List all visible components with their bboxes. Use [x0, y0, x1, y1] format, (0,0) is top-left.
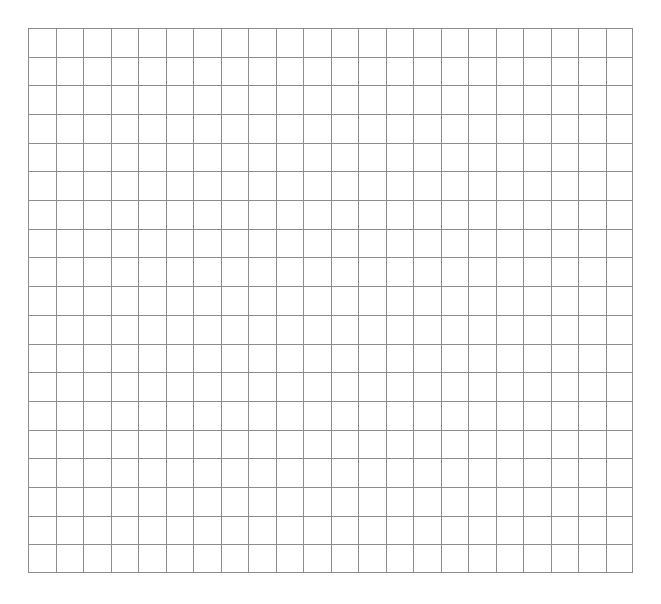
grid-lines	[28, 28, 633, 573]
graph-paper-grid	[28, 28, 633, 573]
